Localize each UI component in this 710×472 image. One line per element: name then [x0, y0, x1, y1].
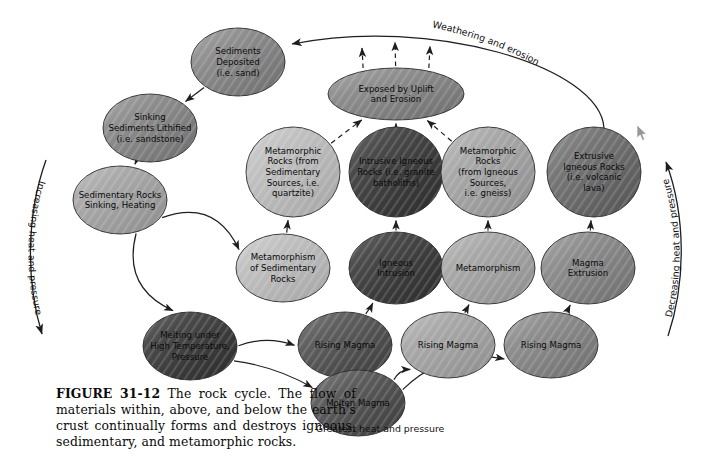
node-exposed-uplift[interactable]: Exposed by Upliftand Erosion — [328, 68, 464, 120]
node-label: MetamorphicRocks(from IgneousSources,i.e… — [458, 146, 519, 199]
node-metamorphic-sed[interactable]: MetamorphicRocks (fromSedimentarySources… — [246, 127, 340, 217]
node-rising-magma-2[interactable]: Rising Magma — [401, 312, 495, 378]
node-label: IgneousIntrusion — [377, 258, 415, 279]
edge-sedimentary-to-metamorphism — [162, 212, 239, 249]
edge-metamorphism-to-metamorphic — [287, 220, 288, 232]
edge-molten-to-rising2 — [394, 369, 410, 380]
node-layer: SedimentsDeposited(i.e. sand)SinkingSedi… — [73, 28, 641, 436]
edge-rising1-to-intrusion — [366, 303, 373, 314]
node-sedimentary-sinking[interactable]: Sedimentary RocksSinking, Heating — [73, 166, 167, 234]
node-metamorphism[interactable]: Metamorphism — [441, 232, 535, 304]
node-label: Sedimentary RocksSinking, Heating — [79, 190, 162, 211]
node-label: Metamorphism — [456, 263, 521, 273]
label-increasing-heat-and-pressure: Increasing heat and pressure — [26, 180, 47, 316]
node-sediments-deposited[interactable]: SedimentsDeposited(i.e. sand) — [191, 28, 285, 96]
edge-metaign-to-exposed — [427, 121, 451, 142]
node-label: SedimentsDeposited(i.e. sand) — [215, 46, 261, 77]
node-label: MagmaExtrusion — [568, 258, 608, 279]
edge-rising3-to-extrusion — [567, 305, 571, 312]
node-metamorphic-ign[interactable]: MetamorphicRocks(from IgneousSources,i.e… — [441, 127, 535, 217]
node-sinking-lithified[interactable]: SinkingSediments Lithified(i.e. sandston… — [103, 94, 197, 162]
node-melting-under[interactable]: Melting underHigh Temperature,Pressure — [143, 312, 237, 380]
label-weathering-and-erosion: Weathering and erosion — [432, 19, 542, 68]
edge-sedimentary-to-melting — [133, 234, 173, 311]
edge-metamorphic-sed-to-exposed — [331, 120, 362, 143]
node-igneous-intrusion[interactable]: IgneousIntrusion — [349, 232, 443, 304]
figure-caption: FIGURE 31-12 The rock cycle. The flow of… — [56, 386, 356, 451]
edge-melting-to-molten — [234, 361, 312, 388]
node-rising-magma-3[interactable]: Rising Magma — [504, 312, 598, 378]
node-label: Rising Magma — [418, 340, 479, 350]
node-label: Rising Magma — [521, 340, 582, 350]
node-metamorphism-sed[interactable]: Metamorphismof SedimentaryRocks — [236, 234, 330, 302]
edge-rising2-to-metamorphism — [465, 305, 469, 313]
rock-cycle-figure: SedimentsDeposited(i.e. sand)SinkingSedi… — [0, 0, 710, 472]
edge-extrusion-to-extrusive — [590, 220, 591, 230]
node-label: Rising Magma — [315, 340, 376, 350]
edge-melting-to-rising1 — [239, 340, 295, 345]
node-label: MetamorphicRocks (fromSedimentarySources… — [265, 146, 322, 199]
edge-sinking-to-sedimentary — [135, 162, 136, 164]
node-intrusive-igneous[interactable]: Intrusive IgneousRocks (i.e. granitebath… — [349, 127, 443, 217]
figure-caption-label: FIGURE 31-12 — [56, 386, 160, 401]
node-magma-extrusion[interactable]: MagmaExtrusion — [541, 232, 635, 304]
mouse-cursor-icon — [636, 124, 648, 142]
node-rising-magma-1[interactable]: Rising Magma — [298, 312, 392, 378]
edge-sediments-to-sinking — [186, 87, 205, 101]
node-extrusive-igneous[interactable]: ExtrusiveIgneous Rocks(i.e. volcaniclava… — [547, 127, 641, 217]
